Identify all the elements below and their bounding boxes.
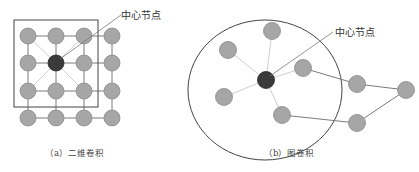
center-node-label-a: 中心节点 [121, 7, 161, 22]
caption-b: （b）图卷积 [264, 146, 314, 158]
center-node-label-b: 中心节点 [335, 24, 375, 39]
neighborhood-ellipse [188, 20, 342, 160]
panel-a-grid [14, 15, 121, 126]
center-node-b [258, 72, 275, 89]
caption-a: （a）二维卷积 [45, 146, 104, 158]
panel-b-graph [188, 20, 415, 160]
